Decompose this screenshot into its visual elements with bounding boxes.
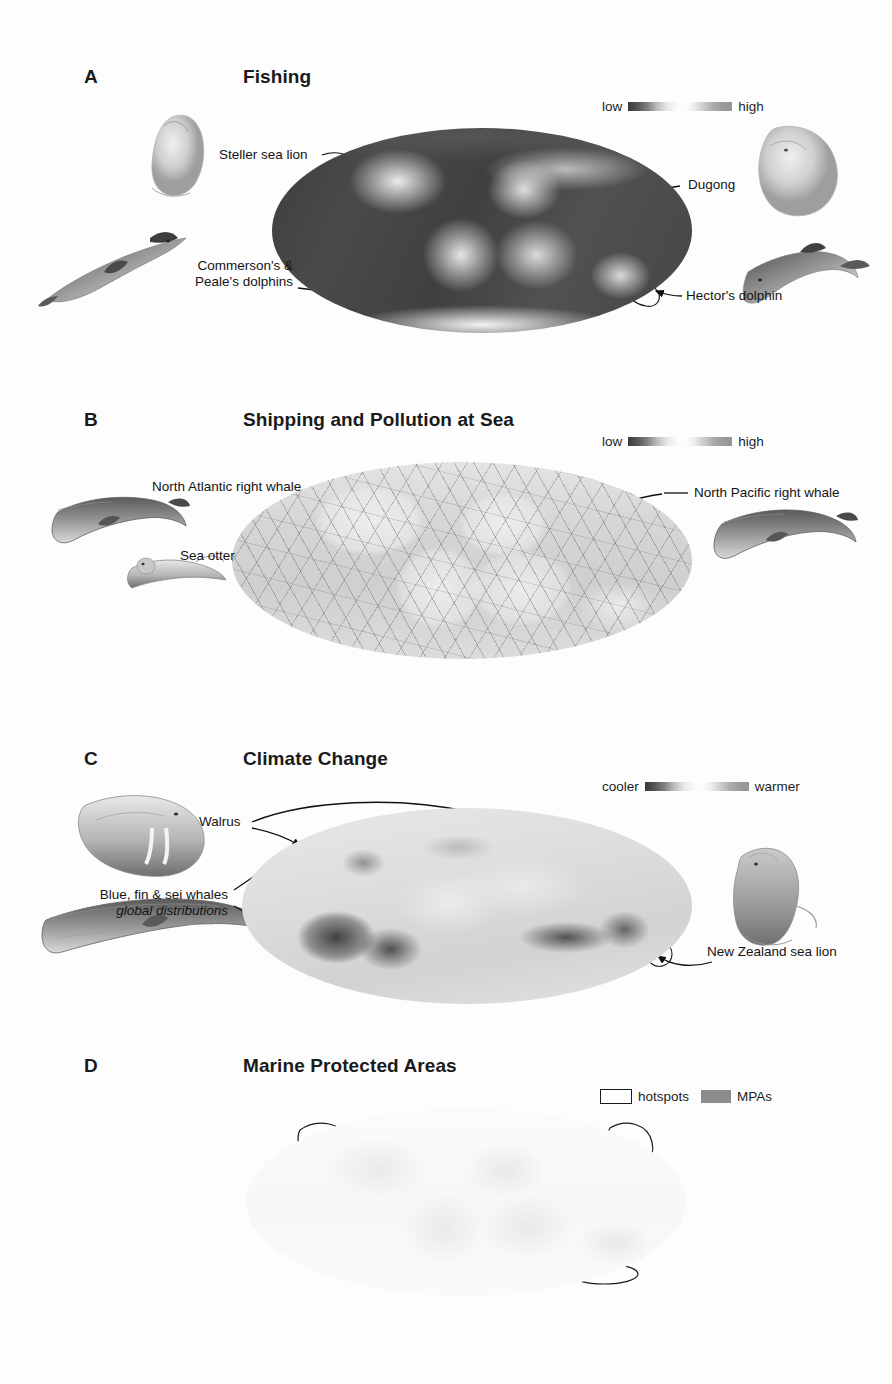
panel-d-letter: D (84, 1055, 98, 1077)
animal-dugong (759, 126, 838, 216)
panel-d-legend-mpas-label: MPAs (737, 1090, 772, 1104)
panel-c-legend-low-label: cooler (602, 780, 639, 794)
panel-d-legend-item-mpas: MPAs (701, 1090, 772, 1104)
panel-b-legend-high-label: high (738, 435, 764, 449)
panel-a-title: Fishing (243, 66, 311, 88)
panel-b-legend-gradient-bar (628, 437, 732, 446)
panel-b-letter: B (84, 409, 98, 431)
panel-a-annot-commersons-line2: Peale's dolphins (195, 274, 293, 289)
panel-a-legend-high-label: high (738, 100, 764, 114)
panel-a-annot-commersons-peales-dolphins: Commerson's & Peale's dolphins (110, 258, 293, 290)
panel-c-title: Climate Change (243, 748, 388, 770)
animal-steller-sea-lion (152, 115, 204, 196)
panel-c-letter: C (84, 748, 98, 770)
panel-c-annot-blue-fin-sei-line1: Blue, fin & sei whales (100, 887, 228, 902)
panel-a-legend-low-label: low (602, 100, 622, 114)
panel-d-legend-hotspots-label: hotspots (638, 1090, 689, 1104)
animal-north-atlantic-right-whale (52, 497, 190, 543)
panel-b-annot-sea-otter: Sea otter (180, 548, 235, 564)
panel-d-map (246, 1108, 686, 1296)
panel-c-annot-blue-fin-sei-whales: Blue, fin & sei whales global distributi… (70, 887, 228, 919)
panel-c-legend-high-label: warmer (755, 780, 800, 794)
panel-a-annot-hectors-dolphin: Hector's dolphin (686, 288, 782, 304)
panel-b-annot-north-pacific-right-whale: North Pacific right whale (694, 485, 840, 501)
panel-a-annot-steller-sea-lion: Steller sea lion (219, 147, 308, 163)
panel-b-title: Shipping and Pollution at Sea (243, 409, 514, 431)
panel-c-annot-blue-fin-sei-line2: global distributions (70, 903, 228, 919)
panel-c-legend: cooler warmer (602, 780, 800, 794)
animal-north-pacific-right-whale (714, 510, 858, 558)
panel-d-legend: hotspots MPAs (600, 1089, 772, 1104)
animal-new-zealand-sea-lion (734, 848, 817, 945)
panel-c-annot-new-zealand-sea-lion: New Zealand sea lion (707, 944, 837, 960)
panel-b-legend-low-label: low (602, 435, 622, 449)
mpas-swatch (701, 1090, 731, 1103)
panel-a-map (272, 128, 692, 333)
panel-c-annot-walrus: Walrus (199, 814, 241, 830)
hotspots-swatch (600, 1089, 632, 1104)
leader-new-zealand-sea-lion (658, 956, 712, 965)
panel-c-map (242, 808, 692, 1004)
panel-d-legend-item-hotspots: hotspots (600, 1089, 689, 1104)
panel-d-title: Marine Protected Areas (243, 1055, 457, 1077)
panel-a-legend-gradient-bar (628, 102, 732, 111)
panel-c-legend-gradient-bar (645, 782, 749, 791)
panel-a-legend: low high (602, 100, 764, 114)
panel-b-annot-north-atlantic-right-whale: North Atlantic right whale (152, 479, 301, 495)
panel-a-letter: A (84, 66, 98, 88)
leader-hectors-dolphin (656, 291, 682, 296)
animal-walrus (78, 796, 204, 877)
panel-b-legend: low high (602, 435, 764, 449)
panel-a-annot-dugong: Dugong (688, 177, 735, 193)
panel-a-annot-commersons-line1: Commerson's & (197, 258, 293, 273)
figure-canvas: A Fishing low high Steller sea lion Comm… (0, 0, 892, 1384)
